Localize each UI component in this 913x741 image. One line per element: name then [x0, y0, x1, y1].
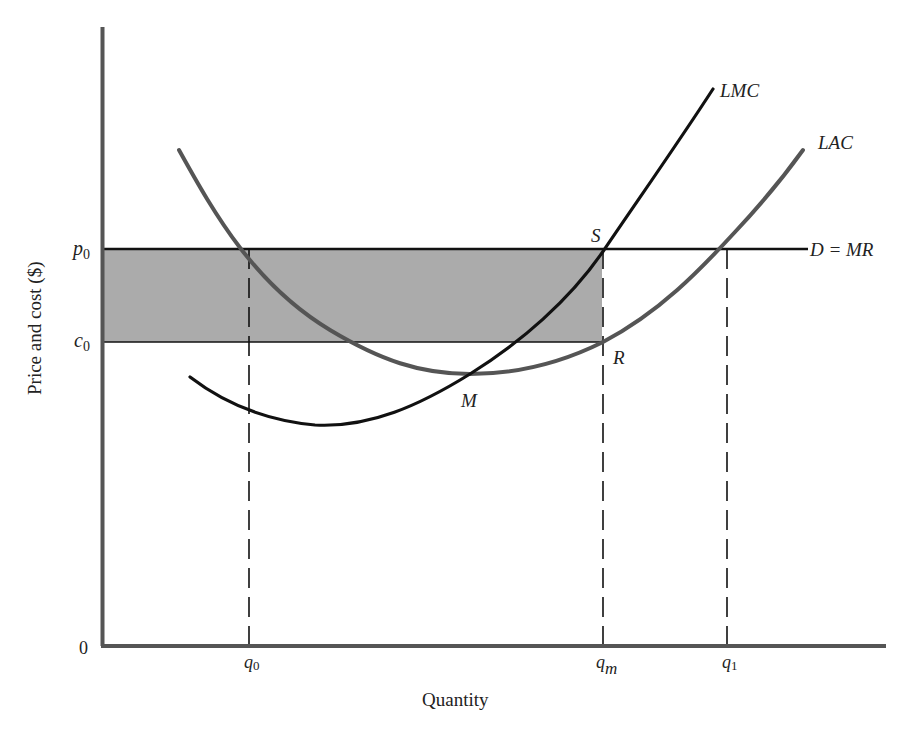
qm-label: qm	[596, 652, 617, 678]
x-axis-title: Quantity	[422, 689, 489, 710]
c0-label: c0	[74, 329, 90, 354]
y-axis-title: Price and cost ($)	[24, 262, 46, 395]
profit-area	[104, 249, 602, 342]
q1-label: q1	[722, 652, 738, 673]
origin-label: 0	[79, 638, 88, 658]
q0-label: q0	[244, 652, 260, 673]
dmr-label: D = MR	[809, 239, 874, 260]
point-s-label: S	[591, 225, 601, 246]
point-r-label: R	[612, 347, 625, 368]
p0-label: p0	[71, 237, 90, 262]
lmc-label: LMC	[719, 80, 759, 101]
point-m-label: M	[460, 390, 478, 411]
cost-curve-chart: LMC LAC D = MR S R M p0 c0 0 q0 qm q1 Qu…	[0, 0, 913, 741]
lac-label: LAC	[817, 132, 853, 153]
